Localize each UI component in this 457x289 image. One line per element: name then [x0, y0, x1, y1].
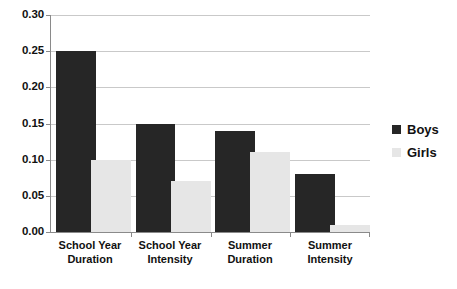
x-axis-tick-mark — [211, 232, 212, 237]
bar-series-layer — [51, 15, 370, 232]
legend-item-girls: Girls — [392, 141, 454, 164]
bar-boys — [295, 174, 335, 232]
x-axis-category-label: School YearIntensity — [130, 238, 210, 266]
x-axis-tick-mark — [369, 232, 370, 237]
bar-group — [51, 15, 131, 232]
chart-legend: BoysGirls — [392, 118, 454, 164]
category-label-line: Summer — [210, 238, 290, 252]
y-axis-tick-label: 0.10 — [6, 154, 44, 166]
bar-boys — [56, 51, 96, 232]
y-axis-tick-mark — [46, 232, 51, 233]
y-axis-tick-label: 0.30 — [6, 9, 44, 21]
y-axis-tick-label: 0.25 — [6, 45, 44, 57]
bar-girls — [91, 160, 131, 232]
legend-label: Boys — [407, 122, 439, 137]
y-axis-tick-label: 0.15 — [6, 118, 44, 130]
bar-boys — [136, 124, 176, 233]
category-label-line: Intensity — [130, 252, 210, 266]
legend-label: Girls — [407, 145, 437, 160]
category-label-line: Duration — [210, 252, 290, 266]
bar-boys — [215, 131, 255, 232]
y-axis-tick-labels: 0.300.250.200.150.100.050.00 — [6, 0, 44, 289]
category-label-line: Summer — [290, 238, 370, 252]
plot-area — [50, 15, 370, 232]
y-axis-tick-label: 0.05 — [6, 190, 44, 202]
y-axis-tick-label: 0.20 — [6, 82, 44, 94]
bar-group — [131, 15, 211, 232]
legend-swatch-icon — [392, 125, 401, 134]
bar-girls — [171, 181, 211, 232]
x-axis-tick-mark — [290, 232, 291, 237]
x-axis-category-label: SummerDuration — [210, 238, 290, 266]
y-axis-tick-label: 0.00 — [6, 226, 44, 238]
legend-item-boys: Boys — [392, 118, 454, 141]
category-label-line: Duration — [50, 252, 130, 266]
bar-group — [211, 15, 291, 232]
x-axis-category-labels: School YearDurationSchool YearIntensityS… — [50, 238, 370, 284]
bar-girls — [330, 225, 370, 232]
bar-girls — [250, 152, 290, 232]
bar-chart: 0.300.250.200.150.100.050.00 School Year… — [0, 0, 457, 289]
category-label-line: School Year — [50, 238, 130, 252]
legend-swatch-icon — [392, 148, 401, 157]
bar-group — [290, 15, 370, 232]
category-label-line: School Year — [130, 238, 210, 252]
x-axis-category-label: School YearDuration — [50, 238, 130, 266]
category-label-line: Intensity — [290, 252, 370, 266]
x-axis-tick-mark — [131, 232, 132, 237]
x-axis-category-label: SummerIntensity — [290, 238, 370, 266]
